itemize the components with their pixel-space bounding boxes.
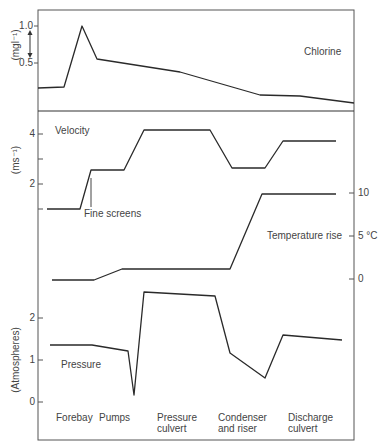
- velocity-unit-label: (ms⁻¹): [10, 146, 21, 174]
- velocity-tick-4: 4: [29, 128, 35, 139]
- chlorine-panel: 1.0 0.5 (mgl⁻¹) Chlorine: [10, 20, 354, 103]
- temperature-tick-0: 0: [358, 273, 364, 284]
- pressure-line: [50, 292, 342, 395]
- fine-screens-annotation: Fine screens: [84, 208, 141, 219]
- pressure-panel: 2 1 0 (Atmospheres) Pressure: [10, 292, 342, 407]
- pressure-tick-1: 1: [29, 354, 35, 365]
- velocity-panel: 4 2 (ms⁻¹) Velocity Fine screens: [10, 125, 336, 219]
- velocity-tick-2: 2: [29, 178, 35, 189]
- chlorine-line: [38, 26, 354, 103]
- chlorine-unit-label: (mgl⁻¹): [10, 29, 21, 60]
- pressure-unit-label: (Atmospheres): [10, 327, 21, 393]
- temperature-tick-10: 10: [358, 187, 370, 198]
- temperature-label: Temperature rise: [267, 230, 342, 241]
- stage-condenser-riser: Condenserand riser: [218, 412, 268, 434]
- stage-labels: Forebay Pumps Pressureculvert Condensera…: [56, 412, 333, 434]
- stage-discharge-culvert: Dischargeculvert: [288, 412, 333, 434]
- pressure-label: Pressure: [61, 359, 101, 370]
- chlorine-label: Chlorine: [304, 46, 342, 57]
- chlorine-tick-05: 0.5: [19, 57, 33, 68]
- stage-forebay: Forebay: [56, 412, 93, 423]
- stage-pumps: Pumps: [99, 412, 130, 423]
- pressure-tick-2: 2: [29, 312, 35, 323]
- temperature-panel: 10 5 °C 0 Temperature rise: [52, 187, 378, 284]
- double-arrow-icon: [28, 30, 33, 58]
- temperature-tick-5: 5 °C: [358, 230, 378, 241]
- velocity-label: Velocity: [55, 125, 89, 136]
- chlorine-tick-1: 1.0: [19, 20, 33, 31]
- pressure-tick-0: 0: [29, 396, 35, 407]
- cooling-water-profile-diagram: 1.0 0.5 (mgl⁻¹) Chlorine 4 2 (ms⁻¹) Velo…: [0, 0, 387, 446]
- chart-frame: [38, 10, 354, 440]
- stage-pressure-culvert: Pressureculvert: [157, 412, 197, 434]
- velocity-line: [47, 130, 336, 209]
